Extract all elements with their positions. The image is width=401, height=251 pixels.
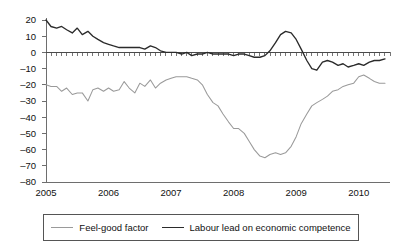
y-axis-tick-label: –80 [20, 176, 36, 187]
x-axis-tick-label: 2009 [286, 187, 307, 198]
legend-item-labour-lead: Labour lead on economic competence [162, 222, 351, 233]
legend-label-feel-good-factor: Feel-good factor [79, 222, 148, 233]
legend-item-feel-good-factor: Feel-good factor [51, 222, 148, 233]
y-axis-tick-label: –70 [20, 160, 36, 171]
y-axis-tick-label: 0 [31, 47, 36, 58]
y-axis-tick-label: 10 [25, 31, 36, 42]
y-axis-tick-label: –50 [20, 128, 36, 139]
line-swatch-dark-icon [162, 227, 184, 228]
x-axis-tick-label: 2010 [348, 187, 369, 198]
series-line-labour-lead [46, 20, 385, 70]
line-swatch-light-icon [51, 227, 73, 228]
x-axis-tick-labels: 200520062007200820092010 [35, 187, 369, 198]
y-axis-tick-marks [42, 20, 47, 182]
y-axis-tick-label: 20 [25, 14, 36, 25]
x-axis-tick-label: 2005 [35, 187, 56, 198]
x-axis-tick-label: 2006 [98, 187, 119, 198]
y-axis-tick-label: –30 [20, 95, 36, 106]
chart-container: 20100–10–20–30–40–50–60–70–80 2005200620… [0, 0, 401, 251]
y-axis-tick-labels: 20100–10–20–30–40–50–60–70–80 [20, 14, 36, 187]
series-line-feel-good-factor [46, 75, 385, 158]
x-axis-tick-label: 2007 [161, 187, 182, 198]
x-axis-tick-label: 2008 [223, 187, 244, 198]
y-axis-tick-label: –10 [20, 63, 36, 74]
y-axis-tick-label: –20 [20, 79, 36, 90]
legend-label-labour-lead: Labour lead on economic competence [190, 222, 351, 233]
y-axis-tick-label: –60 [20, 144, 36, 155]
y-axis-tick-label: –40 [20, 112, 36, 123]
chart-legend: Feel-good factor Labour lead on economic… [43, 214, 359, 241]
